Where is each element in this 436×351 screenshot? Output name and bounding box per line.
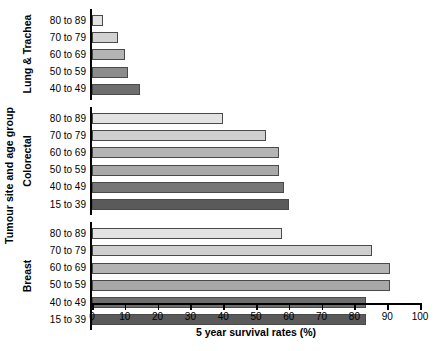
category-label: 70 to 79 [50, 32, 86, 44]
group-label: Breast [18, 222, 36, 330]
x-tick-label: 10 [119, 311, 130, 322]
bar [92, 84, 140, 95]
category-axis-labels: 80 to 8970 to 7960 to 6950 to 5940 to 49… [36, 11, 89, 303]
bar [92, 113, 223, 124]
bar [92, 32, 118, 43]
x-tick-label: 100 [412, 311, 429, 322]
category-label: 15 to 39 [50, 199, 86, 211]
bar [92, 280, 390, 291]
y-axis-title: Tumour site and age group [0, 0, 18, 351]
x-tick [223, 305, 225, 310]
bar [92, 228, 282, 239]
x-tick-label: 70 [316, 311, 327, 322]
x-tick-label: 30 [185, 311, 196, 322]
bar [92, 147, 279, 158]
bar [92, 49, 125, 60]
x-tick [420, 305, 422, 310]
category-label: 70 to 79 [50, 130, 86, 142]
x-tick-label: 90 [382, 311, 393, 322]
bar [92, 245, 372, 256]
category-label: 60 to 69 [50, 49, 86, 61]
x-tick [289, 305, 291, 310]
x-tick [322, 305, 324, 310]
x-axis-title: 5 year survival rates (%) [92, 326, 420, 338]
bar-chart: Tumour site and age group Lung & Trachea… [0, 0, 436, 351]
category-label: 40 to 49 [50, 297, 86, 309]
bar [92, 199, 289, 210]
x-tick [354, 305, 356, 310]
category-label: 80 to 89 [50, 228, 86, 240]
bar [92, 165, 279, 176]
category-label: 50 to 59 [50, 279, 86, 291]
x-tick [387, 305, 389, 310]
x-tick [125, 305, 127, 310]
x-tick-label: 50 [250, 311, 261, 322]
category-label: 60 to 69 [50, 147, 86, 159]
category-label: 70 to 79 [50, 245, 86, 257]
plot-area [92, 11, 420, 303]
x-tick-label: 80 [349, 311, 360, 322]
x-tick-label: 0 [89, 311, 95, 322]
x-tick-label: 60 [283, 311, 294, 322]
bar [92, 15, 103, 26]
group-label: Lung & Trachea [18, 9, 36, 100]
bar [92, 67, 128, 78]
x-tick [92, 305, 94, 310]
x-tick-label: 40 [218, 311, 229, 322]
x-tick-label: 20 [152, 311, 163, 322]
bar [92, 263, 390, 274]
category-label: 15 to 39 [50, 314, 86, 326]
x-tick [256, 305, 258, 310]
bar [92, 130, 266, 141]
bar [92, 182, 284, 193]
category-label: 60 to 69 [50, 262, 86, 274]
category-label: 40 to 49 [50, 181, 86, 193]
group-label: Colorectal [18, 107, 36, 215]
x-tick [158, 305, 160, 310]
x-tick [190, 305, 192, 310]
category-label: 50 to 59 [50, 66, 86, 78]
category-label: 40 to 49 [50, 83, 86, 95]
category-label: 50 to 59 [50, 164, 86, 176]
category-label: 80 to 89 [50, 15, 86, 27]
category-label: 80 to 89 [50, 113, 86, 125]
